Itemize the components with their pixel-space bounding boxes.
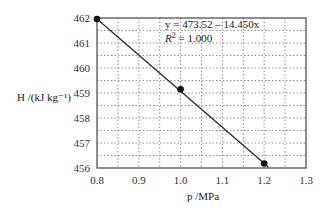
x-tick-label: 0.9: [132, 174, 146, 186]
x-axis-ticks: 0.80.91.01.11.21.3: [90, 174, 313, 186]
data-point-marker: [94, 16, 101, 23]
data-point-marker: [261, 160, 268, 167]
x-tick-label: 1.3: [299, 174, 313, 186]
y-tick-label: 456: [74, 162, 91, 174]
y-tick-label: 461: [74, 37, 91, 49]
chart: 456457458459460461462 0.80.91.01.11.21.3…: [0, 0, 324, 216]
data-point-marker: [177, 86, 184, 93]
x-tick-label: 1.0: [174, 174, 188, 186]
y-tick-label: 457: [74, 137, 91, 149]
x-tick-label: 0.8: [90, 174, 104, 186]
x-tick-label: 1.1: [216, 174, 230, 186]
x-tick-label: 1.2: [257, 174, 271, 186]
y-axis-label: H /(kJ kg⁻¹): [17, 91, 71, 104]
y-tick-label: 458: [74, 112, 91, 124]
x-axis-label: p /MPa: [187, 190, 219, 202]
r-squared-annotation: R2 = 1.000: [164, 31, 213, 44]
y-tick-label: 462: [74, 12, 91, 24]
equation-annotation: y = 473.52 – 14.450x: [165, 18, 260, 30]
y-tick-label: 459: [74, 87, 91, 99]
y-axis-ticks: 456457458459460461462: [74, 12, 91, 174]
y-tick-label: 460: [74, 62, 91, 74]
